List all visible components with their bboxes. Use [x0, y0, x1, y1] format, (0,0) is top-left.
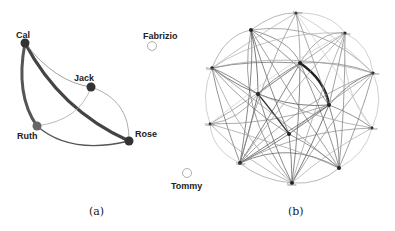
- label-b-14: Name: [287, 183, 296, 187]
- edge-jack-ruth: [37, 87, 91, 126]
- figure-canvas: Cal Jack Ruth Rose Fabrizio Tommy (a): [0, 0, 395, 231]
- label-fabrizio: Fabrizio: [143, 31, 178, 41]
- node-fabrizio: [148, 42, 157, 51]
- node-b-8: [327, 103, 331, 107]
- label-b-6: Name: [370, 72, 379, 76]
- node-b-13: [337, 166, 341, 170]
- label-b-12: Name: [236, 162, 245, 166]
- label-b-9: Name: [205, 123, 214, 127]
- label-cal: Cal: [16, 30, 30, 40]
- node-b-11: [287, 132, 291, 136]
- panel-b-edges: [205, 13, 378, 183]
- node-b-5: [298, 61, 302, 65]
- node-ruth: [33, 122, 42, 131]
- node-jack: [87, 83, 96, 92]
- panel-a-labels: Cal Jack Ruth Rose Fabrizio Tommy: [16, 30, 202, 191]
- label-b-10: Name: [368, 127, 377, 131]
- node-tommy: [183, 169, 192, 178]
- caption-b: (b): [288, 205, 304, 218]
- label-tommy: Tommy: [171, 181, 202, 191]
- label-b-1: Name: [293, 11, 302, 15]
- panel-a-nodes: [21, 39, 192, 178]
- label-b-4: Name: [206, 67, 215, 71]
- node-rose: [125, 137, 134, 146]
- node-b-2: [249, 28, 253, 32]
- label-rose: Rose: [135, 129, 157, 139]
- label-b-3: Name: [341, 32, 350, 36]
- edge-cal-ruth: [22, 43, 37, 126]
- panel-b: Name Name Name Name Name Name Name Name …: [205, 11, 379, 218]
- caption-a: (a): [89, 205, 104, 218]
- label-jack: Jack: [74, 73, 95, 83]
- node-b-7: [256, 92, 260, 96]
- label-ruth: Ruth: [17, 131, 38, 141]
- panel-a: Cal Jack Ruth Rose Fabrizio Tommy (a): [16, 30, 202, 218]
